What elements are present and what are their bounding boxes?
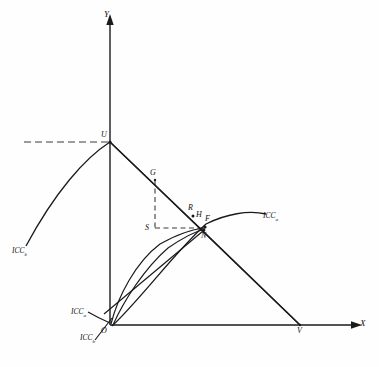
curve-label-subscript: a <box>276 217 279 222</box>
point-marker-F <box>203 225 206 228</box>
figure-canvas: Y X U G S R H F N V O ICCb ICCa ICCa ICC… <box>0 0 379 367</box>
point-label-H: H <box>196 211 202 219</box>
point-label-R: R <box>188 204 193 212</box>
point-label-O: O <box>101 327 107 335</box>
curve-label-icc-b-origin: ICCb <box>80 334 95 344</box>
curve-label-base: ICC <box>12 246 25 255</box>
curve-U-to-ICCb <box>26 142 110 246</box>
x-axis-label: X <box>360 319 366 328</box>
curve-label-subscript: a <box>84 313 87 318</box>
axes-group <box>106 14 362 329</box>
point-label-F: F <box>205 215 210 223</box>
diagram-svg <box>0 0 379 367</box>
curve-label-subscript: b <box>25 252 28 257</box>
line-V-through-N <box>203 231 300 325</box>
y-axis-label: Y <box>104 10 109 19</box>
curve-label-subscript: b <box>93 339 96 344</box>
line-U-to-N <box>110 142 204 232</box>
curve-label-base: ICC <box>71 307 84 316</box>
point-label-N: N <box>201 232 206 240</box>
curve-label-base: ICC <box>263 211 276 220</box>
curve-label-icc-a-origin: ICCa <box>71 308 86 318</box>
curve-label-base: ICC <box>80 333 93 342</box>
curve-label-icc-a-right: ICCa <box>263 212 278 222</box>
point-marker-U <box>108 140 111 143</box>
dashed-guides-group <box>24 142 205 228</box>
curves-group <box>26 142 266 326</box>
point-label-V: V <box>297 327 302 335</box>
point-marker-G <box>154 179 156 181</box>
point-label-U: U <box>101 131 107 139</box>
straight-lines-group <box>95 142 300 340</box>
point-label-S: S <box>145 224 149 232</box>
point-label-G: G <box>150 169 156 177</box>
curve-ICCa-origin-tail <box>88 312 110 323</box>
curve-label-icc-b-upper-left: ICCb <box>12 247 27 257</box>
point-marker-R <box>192 215 195 218</box>
